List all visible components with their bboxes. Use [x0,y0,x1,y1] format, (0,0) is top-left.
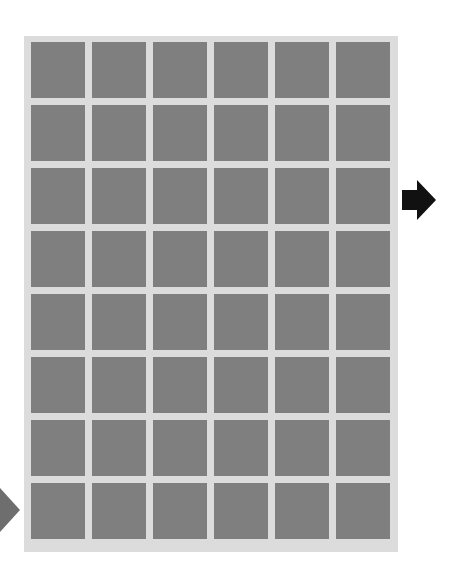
filter-tile [214,231,268,287]
filter-tile [92,231,146,287]
filter-tile [153,357,207,413]
filter-tile [275,231,329,287]
filter-tile [336,483,390,539]
filter-tile [275,168,329,224]
filter-tile [336,357,390,413]
filter-tile [336,231,390,287]
filter-tile [214,42,268,98]
filter-tile [275,357,329,413]
filter-tile [336,294,390,350]
filter-tile [275,420,329,476]
filter-tile [31,483,85,539]
filter-tile [214,483,268,539]
filter-tile [275,42,329,98]
arrow-left-icon [0,488,20,532]
filter-tile [31,231,85,287]
filter-tile [153,168,207,224]
filter-tile [153,294,207,350]
filter-tile [31,357,85,413]
filter-tile [336,42,390,98]
filter-tile [92,483,146,539]
filter-tile [153,42,207,98]
filter-grid [24,36,398,552]
filter-tile [92,357,146,413]
filter-tile [214,357,268,413]
filter-tile [153,420,207,476]
filter-tile [153,483,207,539]
filter-tile [92,168,146,224]
filter-tile [92,294,146,350]
filter-tile [31,105,85,161]
filter-tile [214,168,268,224]
filter-tile [336,168,390,224]
arrow-right-icon [402,180,436,220]
filter-tile [275,483,329,539]
filter-tile [214,105,268,161]
filter-tile [275,294,329,350]
filter-tile [31,42,85,98]
filter-tile [31,168,85,224]
filter-tile [153,231,207,287]
filter-tile [153,105,207,161]
filter-tile [31,420,85,476]
filter-tile [336,105,390,161]
filter-tile [92,105,146,161]
filter-tile [31,294,85,350]
filter-tile [336,420,390,476]
filter-tile [214,420,268,476]
filter-tile [214,294,268,350]
filter-tile [92,42,146,98]
filter-tile [275,105,329,161]
filter-tile [92,420,146,476]
